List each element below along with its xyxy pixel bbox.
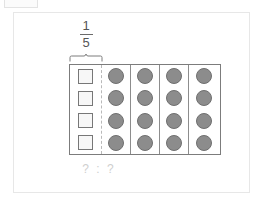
empty-square-cell[interactable] bbox=[78, 113, 93, 128]
fraction-numerator: 1 bbox=[69, 19, 103, 33]
filled-dot-cell[interactable] bbox=[137, 113, 153, 129]
fraction-denominator: 5 bbox=[69, 36, 103, 50]
filled-dot-cell[interactable] bbox=[196, 68, 212, 84]
filled-dot-cell[interactable] bbox=[196, 135, 212, 151]
empty-square-cell[interactable] bbox=[78, 91, 93, 106]
grid-column-dots bbox=[160, 65, 189, 154]
grid-column-dots bbox=[102, 65, 131, 154]
filled-dot-cell[interactable] bbox=[137, 68, 153, 84]
filled-dot-cell[interactable] bbox=[166, 113, 182, 129]
filled-dot-cell[interactable] bbox=[108, 113, 124, 129]
filled-dot-cell[interactable] bbox=[196, 113, 212, 129]
worksheet-card: 1 5 bbox=[13, 12, 250, 193]
filled-dot-cell[interactable] bbox=[108, 90, 124, 106]
filled-dot-cell[interactable] bbox=[166, 68, 182, 84]
filled-dot-cell[interactable] bbox=[137, 135, 153, 151]
filled-dot-cell[interactable] bbox=[166, 135, 182, 151]
answer-prompt: ? : ? bbox=[69, 162, 129, 176]
grid-column-squares bbox=[70, 65, 102, 154]
filled-dot-cell[interactable] bbox=[137, 90, 153, 106]
filled-dot-cell[interactable] bbox=[166, 90, 182, 106]
empty-square-cell[interactable] bbox=[78, 69, 93, 84]
fraction-label: 1 5 bbox=[69, 19, 103, 49]
ratio-grid bbox=[69, 64, 221, 155]
fraction-ratio-diagram: 1 5 bbox=[56, 19, 216, 179]
grid-column-dots bbox=[131, 65, 160, 154]
empty-square-cell[interactable] bbox=[78, 135, 93, 150]
filled-dot-cell[interactable] bbox=[196, 90, 212, 106]
curly-brace-icon bbox=[69, 53, 103, 62]
filled-dot-cell[interactable] bbox=[108, 135, 124, 151]
clipped-rectangle-artifact bbox=[4, 0, 38, 8]
grid-column-dots bbox=[189, 65, 218, 154]
filled-dot-cell[interactable] bbox=[108, 68, 124, 84]
